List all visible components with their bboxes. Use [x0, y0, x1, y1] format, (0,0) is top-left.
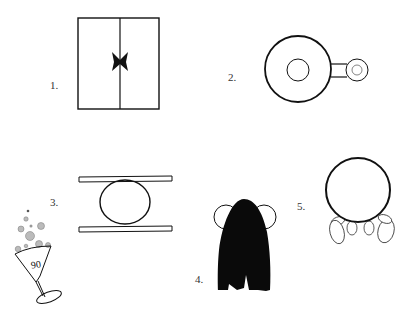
figure-5-droodle: [326, 158, 397, 245]
feet-oval: [347, 221, 357, 235]
small-ring-outer: [346, 59, 368, 81]
bottom-bar: [79, 226, 172, 232]
inner-circle: [287, 59, 309, 81]
glass-number: 90: [30, 258, 42, 271]
feet-oval: [364, 221, 374, 235]
top-bar: [79, 176, 172, 182]
feet-oval: [327, 219, 347, 246]
figure-3-droodle: [79, 176, 172, 232]
figure-4-droodle: [214, 199, 276, 291]
hair-shape: [218, 199, 271, 291]
figure-2-droodle: [265, 36, 368, 102]
squeezed-circle: [100, 180, 150, 224]
large-circle: [265, 36, 331, 102]
body-circle: [326, 158, 390, 222]
figure-1-droodle: [78, 18, 159, 109]
martini-glass-icon: 90: [15, 210, 63, 306]
